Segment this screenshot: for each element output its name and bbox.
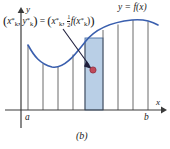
- x-axis-arrow: [161, 107, 167, 114]
- y-axis-arrow: [18, 7, 25, 13]
- sample-point-formula-label: (x*k, y*k) = (x*k, 12f(x*k)): [3, 14, 94, 28]
- upper-limit-label: b: [144, 113, 149, 123]
- riemann-sum-figure: (x*k, y*k) = (x*k, 12f(x*k)) y = f(x) y …: [0, 0, 170, 149]
- formula-rhs-close-paren: ): [90, 13, 94, 28]
- y-axis-label: y: [26, 5, 30, 14]
- lower-limit-label: a: [25, 113, 30, 123]
- formula-equals: =: [37, 16, 47, 26]
- sample-point-dot: [90, 67, 96, 73]
- x-axis-label: x: [156, 98, 160, 107]
- curve-equation-label: y = f(x): [118, 3, 147, 13]
- figure-caption: (b): [76, 131, 88, 141]
- formula-fx: f(x: [71, 16, 81, 26]
- formula-comma-2: ,: [62, 16, 67, 26]
- highlighted-rectangle: [85, 38, 103, 110]
